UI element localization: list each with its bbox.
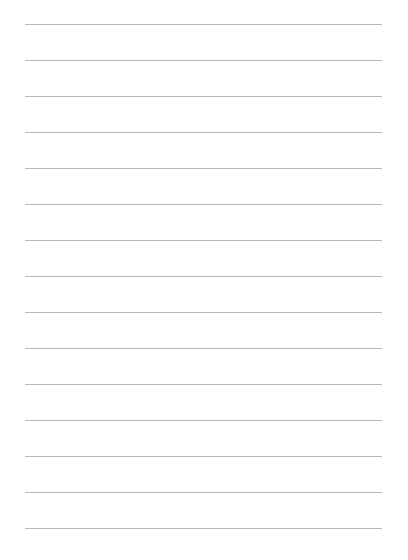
ruled-line (25, 204, 382, 205)
ruled-line (25, 96, 382, 97)
ruled-line (25, 132, 382, 133)
ruled-line (25, 24, 382, 25)
ruled-line (25, 168, 382, 169)
ruled-line (25, 240, 382, 241)
ruled-line (25, 492, 382, 493)
ruled-line (25, 348, 382, 349)
ruled-line (25, 60, 382, 61)
ruled-line (25, 528, 382, 529)
ruled-line (25, 456, 382, 457)
ruled-line (25, 384, 382, 385)
ruled-line (25, 276, 382, 277)
lined-paper-page (0, 0, 408, 560)
ruled-line (25, 312, 382, 313)
ruled-line (25, 420, 382, 421)
